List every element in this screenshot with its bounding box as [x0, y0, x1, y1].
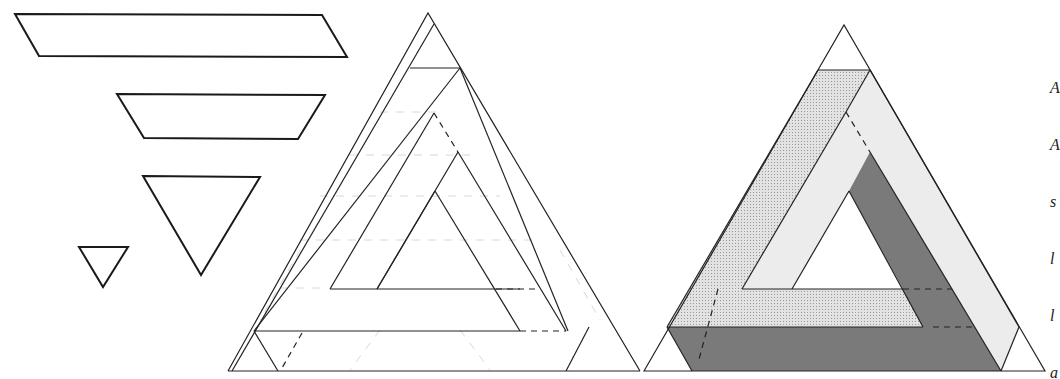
- large-inverted-triangle: [143, 176, 260, 275]
- caption-line: A: [1050, 135, 1060, 154]
- trapezoid: [117, 94, 325, 139]
- figure-caption: A A s l l a: [1050, 40, 1060, 379]
- caption-line: a: [1050, 363, 1060, 379]
- long-parallelogram: [15, 14, 347, 57]
- shaded-result-panel: [644, 25, 1045, 371]
- small-inverted-triangle: [79, 247, 128, 287]
- caption-line: l: [1050, 249, 1060, 268]
- line-construction-panel: [228, 13, 640, 371]
- caption-line: s: [1050, 192, 1060, 211]
- caption-line: l: [1050, 306, 1060, 325]
- caption-line: A: [1050, 78, 1060, 97]
